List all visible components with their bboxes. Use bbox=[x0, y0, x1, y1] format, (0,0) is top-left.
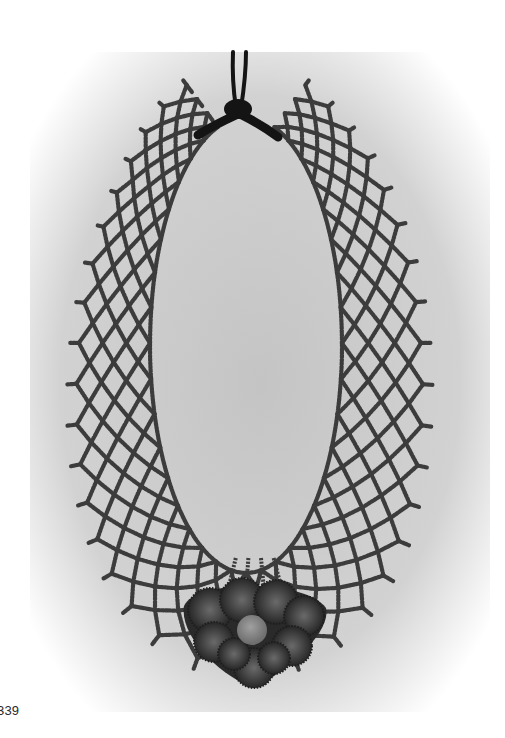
figure-number: 339 bbox=[0, 703, 19, 718]
cord-knot bbox=[224, 99, 252, 119]
necklace-photograph bbox=[0, 0, 505, 738]
